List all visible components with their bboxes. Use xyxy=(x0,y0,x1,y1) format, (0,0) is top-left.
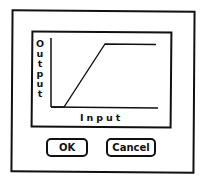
ok-button[interactable]: OK xyxy=(46,138,88,157)
x-axis-label: Input xyxy=(80,112,123,123)
transfer-curve-chart xyxy=(0,0,203,180)
cancel-button[interactable]: Cancel xyxy=(106,138,156,157)
y-axis-label: O u t p u t xyxy=(34,39,46,99)
y-label-letter: t xyxy=(34,89,46,99)
response-line xyxy=(51,44,156,107)
x-axis xyxy=(51,107,158,108)
